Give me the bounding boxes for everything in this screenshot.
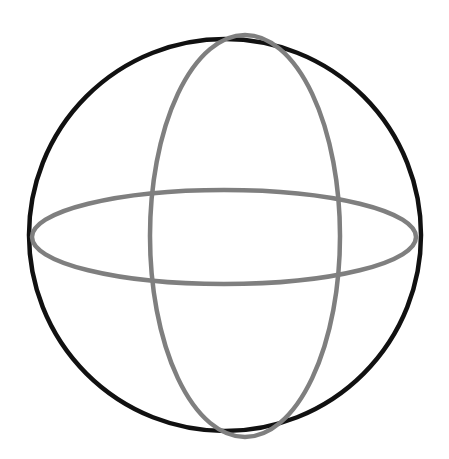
diagram-background	[0, 0, 449, 459]
sphere-figure	[0, 0, 449, 459]
sphere-diagram-canvas	[0, 0, 449, 459]
